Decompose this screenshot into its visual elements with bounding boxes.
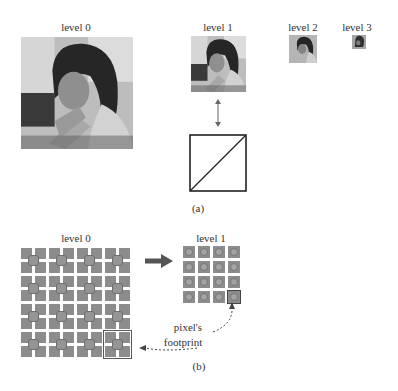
triangulated-quad-diagram: [189, 134, 248, 193]
grid-cell: [77, 304, 102, 329]
grid-cell: [228, 261, 240, 273]
grid-cell: [49, 304, 74, 329]
grid-cell: [183, 276, 195, 288]
grid-cell: [198, 276, 210, 288]
level-1-image: [191, 36, 246, 92]
grid-cell: [213, 276, 225, 288]
grid-cell: [213, 246, 225, 258]
grid-cell: [228, 246, 240, 258]
grid-cell: [49, 248, 74, 273]
level-3-label: level 3: [342, 21, 372, 33]
right-arrow-icon: [145, 254, 173, 268]
level-2-image: [289, 35, 317, 63]
grid-cell: [21, 276, 46, 301]
level-1-grid: [183, 246, 240, 303]
double-arrow-icon: [213, 98, 223, 128]
level-3-image: [352, 35, 366, 49]
level-2-label: level 2: [288, 21, 318, 33]
grid-level-1-label: level 1: [196, 232, 226, 244]
grid-cell: [49, 332, 74, 357]
grid-cell: [21, 332, 46, 357]
grid-cell: [183, 246, 195, 258]
grid-cell: [183, 261, 195, 273]
grid-cell: [213, 261, 225, 273]
grid-cell: [49, 276, 74, 301]
level-1-label: level 1: [203, 21, 233, 33]
grid-cell: [105, 248, 130, 273]
grid-level-0-label: level 0: [61, 232, 91, 244]
grid-cell: [21, 304, 46, 329]
grid-cell: [198, 246, 210, 258]
grid-cell: [105, 276, 130, 301]
pixel-label-line1: pixel's: [174, 321, 202, 333]
level-0-grid: [21, 248, 130, 357]
grid-cell: [21, 248, 46, 273]
pixel-label-line2: footprint: [164, 336, 203, 348]
caption-b: (b): [193, 360, 206, 372]
grid-cell: [198, 261, 210, 273]
level-0-image: [21, 37, 133, 149]
grid-cell: [77, 276, 102, 301]
level-0-label: level 0: [61, 21, 91, 33]
grid-cell: [228, 276, 240, 288]
grid-cell: [77, 332, 102, 357]
grid-cell: [77, 248, 102, 273]
caption-a: (a): [192, 202, 204, 214]
